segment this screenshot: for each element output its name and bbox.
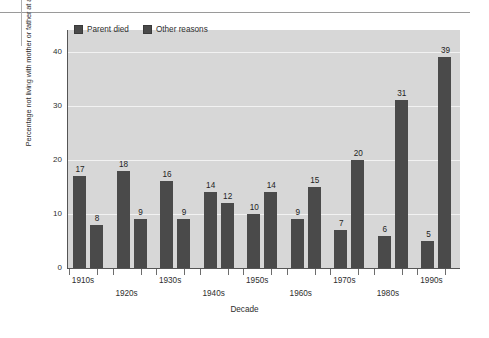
bar <box>291 219 304 268</box>
x-axis-ticks <box>0 269 489 275</box>
bar-value-label: 9 <box>287 208 309 217</box>
x-tick <box>200 269 201 275</box>
x-tick-label: 1930s <box>150 276 190 286</box>
bar <box>221 203 234 268</box>
x-tick <box>402 269 403 275</box>
bar-group: 178 <box>73 30 111 268</box>
x-tick <box>243 269 244 275</box>
bar <box>351 160 364 268</box>
bar-value-label: 9 <box>173 208 195 217</box>
y-tick-label: 10 <box>34 210 62 218</box>
x-tick-label: 1950s <box>237 276 277 286</box>
bar-group: 189 <box>117 30 155 268</box>
bar-value-label: 16 <box>156 170 178 179</box>
plot-area: 17818916914121014915720631539 <box>68 30 460 268</box>
y-axis-tick-labels: 010203040 <box>34 26 62 272</box>
bar-value-label: 39 <box>434 46 456 55</box>
x-tick <box>113 269 114 275</box>
bar-value-label: 8 <box>86 214 108 223</box>
legend-swatch-icon <box>74 25 83 34</box>
x-tick <box>374 269 375 275</box>
bar-value-label: 18 <box>113 160 135 169</box>
x-tick <box>445 269 446 275</box>
x-tick <box>358 269 359 275</box>
bar <box>421 241 434 268</box>
y-tick-label: 30 <box>34 102 62 110</box>
x-tick-label: 1970s <box>324 276 364 286</box>
bar-group: 915 <box>291 30 329 268</box>
y-tick-label: 20 <box>34 156 62 164</box>
x-tick <box>330 269 331 275</box>
x-tick <box>417 269 418 275</box>
x-tick-label: 1990s <box>411 276 451 286</box>
x-tick-label: 1910s <box>63 276 103 286</box>
legend-item: Parent died <box>74 25 129 34</box>
bar-group: 631 <box>378 30 416 268</box>
bar <box>264 192 277 268</box>
bar <box>247 214 260 268</box>
x-tick-label: 1980s <box>368 289 408 299</box>
bar-value-label: 7 <box>330 219 352 228</box>
bar <box>334 230 347 268</box>
bar-value-label: 15 <box>304 176 326 185</box>
bar <box>160 181 173 268</box>
bar-chart-figure: Percentage not living with mother or fat… <box>0 0 489 338</box>
bar-value-label: 31 <box>391 89 413 98</box>
bar-group: 1412 <box>204 30 242 268</box>
x-tick-label: 1940s <box>194 289 234 299</box>
bar <box>378 236 391 268</box>
bar-group: 720 <box>334 30 372 268</box>
bar-group: 539 <box>421 30 459 268</box>
chart-legend: Parent diedOther reasons <box>74 22 208 36</box>
bar <box>117 171 130 268</box>
x-tick <box>97 269 98 275</box>
bar-value-label: 20 <box>347 149 369 158</box>
x-tick <box>69 269 70 275</box>
x-tick <box>184 269 185 275</box>
bar <box>134 219 147 268</box>
bar-value-label: 10 <box>243 203 265 212</box>
legend-label: Parent died <box>87 25 129 34</box>
bar-value-label: 6 <box>374 225 396 234</box>
y-tick-label: 40 <box>34 48 62 56</box>
x-tick-label: 1960s <box>281 289 321 299</box>
bar <box>90 225 103 268</box>
legend-item: Other reasons <box>143 25 208 34</box>
bar-group: 1014 <box>247 30 285 268</box>
bar-value-label: 14 <box>200 181 222 190</box>
x-axis-title: Decade <box>0 305 489 314</box>
legend-label: Other reasons <box>156 25 208 34</box>
x-tick <box>287 269 288 275</box>
bar <box>73 176 86 268</box>
bar-value-label: 14 <box>260 181 282 190</box>
x-tick <box>228 269 229 275</box>
legend-swatch-icon <box>143 25 152 34</box>
bar-value-label: 17 <box>69 165 91 174</box>
bar-value-label: 12 <box>217 192 239 201</box>
x-tick <box>141 269 142 275</box>
bar <box>308 187 321 268</box>
bar <box>177 219 190 268</box>
x-tick <box>315 269 316 275</box>
x-tick <box>271 269 272 275</box>
bar-series-container: 17818916914121014915720631539 <box>68 30 460 268</box>
bar-group: 169 <box>160 30 198 268</box>
bar <box>395 100 408 268</box>
x-tick <box>156 269 157 275</box>
x-tick-label: 1920s <box>107 289 147 299</box>
bar-value-label: 5 <box>417 230 439 239</box>
bar-value-label: 9 <box>130 208 152 217</box>
bar <box>438 57 451 268</box>
bar <box>204 192 217 268</box>
